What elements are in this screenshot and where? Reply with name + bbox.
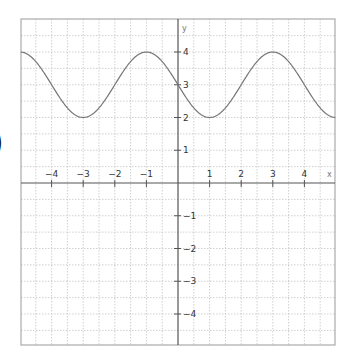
function-graph: −4−3−2−11234−4−3−2−11234 x y: [0, 0, 341, 362]
x-tick-label: −3: [77, 169, 90, 179]
y-tick-label: 1: [183, 145, 189, 155]
y-tick-label: 3: [183, 80, 189, 90]
y-tick-label: −3: [183, 276, 196, 286]
x-tick-label: 2: [238, 169, 244, 179]
y-tick-label: −1: [183, 211, 196, 221]
y-tick-label: −2: [183, 244, 196, 254]
x-tick-label: 3: [270, 169, 276, 179]
x-tick-label: −1: [140, 169, 153, 179]
x-tick-label: 4: [302, 169, 308, 179]
y-axis-label: y: [182, 24, 187, 33]
y-tick-label: 4: [183, 47, 189, 57]
y-tick-label: 2: [183, 113, 189, 123]
x-tick-label: −4: [45, 169, 59, 179]
x-tick-label: 1: [207, 169, 213, 179]
x-axis-label: x: [327, 170, 332, 179]
x-tick-label: −2: [108, 169, 121, 179]
y-tick-label: −4: [183, 309, 197, 319]
